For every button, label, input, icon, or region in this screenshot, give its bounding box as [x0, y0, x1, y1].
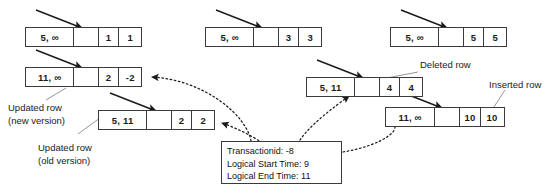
row-pointer-cell [74, 68, 99, 86]
diagram-canvas: 5, ∞ 1 1 5, ∞ 3 3 5, ∞ 5 5 11, ∞ 2 -2 5,… [0, 0, 559, 195]
row-value-1: 10 [460, 108, 481, 126]
row-record-deleted: 5, 11 4 4 [306, 77, 423, 97]
label-inserted-row: Inserted row [489, 78, 541, 91]
row-timestamps: 5, 11 [307, 78, 355, 96]
row-value-1: 3 [279, 28, 300, 46]
row-timestamps: 11, ∞ [26, 68, 74, 86]
row-record-updated-new: 11, ∞ 2 -2 [25, 67, 142, 87]
row-value-2: 2 [192, 111, 214, 129]
row-timestamps: 5, 11 [99, 111, 147, 129]
label-updated-row-new-line1: Updated row [8, 101, 65, 114]
row-timestamps: 5, ∞ [391, 28, 439, 46]
label-updated-row-new: Updated row (new version) [8, 101, 65, 127]
row-pointer-cell [355, 78, 380, 96]
label-updated-row-old-line2: (old version) [38, 154, 92, 167]
row-pointer-cell [147, 111, 172, 129]
row-record: 5, ∞ 1 1 [25, 27, 142, 47]
row-value-1: 2 [99, 68, 120, 86]
row-pointer-cell [254, 28, 279, 46]
row-pointer-cell [74, 28, 99, 46]
row-value-1: 1 [99, 28, 120, 46]
row-value-2: 10 [481, 108, 503, 126]
label-updated-row-old-line1: Updated row [38, 141, 92, 154]
row-record-inserted: 11, ∞ 10 10 [385, 107, 505, 127]
row-value-1: 5 [464, 28, 485, 46]
label-updated-row-new-line2: (new version) [8, 114, 65, 127]
row-pointer-cell [439, 28, 464, 46]
row-value-2: 5 [484, 28, 506, 46]
row-value-1: 2 [172, 111, 193, 129]
row-value-2: 4 [400, 78, 422, 96]
row-timestamps: 5, ∞ [26, 28, 74, 46]
logical-start-time-line: Logical Start Time: 9 [227, 158, 341, 171]
row-record-updated-old: 5, 11 2 2 [98, 110, 215, 130]
row-value-2: 1 [119, 28, 141, 46]
row-value-2: -2 [119, 68, 141, 86]
transaction-id-line: Transactionid: -8 [227, 145, 341, 158]
row-timestamps: 11, ∞ [386, 108, 435, 126]
row-record: 5, ∞ 5 5 [390, 27, 507, 47]
row-pointer-cell [435, 108, 460, 126]
row-value-2: 3 [299, 28, 321, 46]
row-value-1: 4 [380, 78, 401, 96]
row-timestamps: 5, ∞ [206, 28, 254, 46]
label-deleted-row: Deleted row [420, 58, 471, 71]
transaction-info-box: Transactionid: -8 Logical Start Time: 9 … [221, 141, 342, 184]
logical-end-time-line: Logical End Time: 11 [227, 170, 341, 183]
row-record: 5, ∞ 3 3 [205, 27, 322, 47]
label-updated-row-old: Updated row (old version) [38, 141, 92, 167]
